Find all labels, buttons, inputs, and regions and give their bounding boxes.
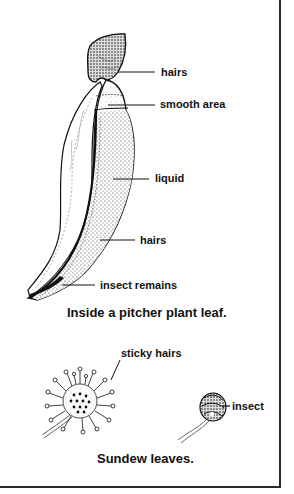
label-hairs-bottom: hairs [140, 234, 166, 247]
pitcher-plant-illustration [28, 34, 155, 300]
caption-sundew-leaves: Sundew leaves. [97, 451, 194, 467]
label-smooth-area: smooth area [160, 98, 225, 111]
sundew-closed-leaf-illustration [178, 393, 230, 443]
label-insect: insect [232, 400, 264, 413]
caption-pitcher-plant: Inside a pitcher plant leaf. [67, 305, 227, 321]
label-sticky-hairs: sticky hairs [121, 347, 182, 360]
sundew-open-leaf-illustration [42, 367, 115, 438]
label-hairs-top: hairs [161, 66, 187, 79]
diagram-art [0, 0, 294, 494]
label-liquid: liquid [155, 172, 184, 185]
label-insect-remains: insect remains [100, 279, 177, 292]
